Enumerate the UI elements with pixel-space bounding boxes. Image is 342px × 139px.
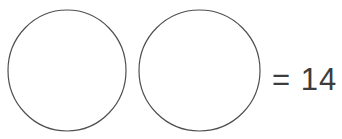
circle-1 bbox=[8, 10, 126, 131]
worksheet-canvas: = 14 bbox=[0, 0, 342, 139]
equation-result-text: = 14 bbox=[272, 61, 340, 99]
circle-2 bbox=[139, 10, 260, 131]
